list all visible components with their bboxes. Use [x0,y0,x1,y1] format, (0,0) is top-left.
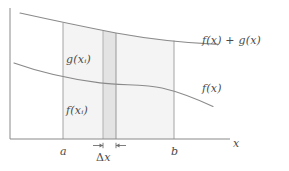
axis-label-x: x [233,138,239,149]
representative-strip-lower [103,83,116,139]
axis-tick-label-a: a [60,146,67,157]
delta-x-measure [93,143,126,148]
segment-label-g-xi: g(xᵢ) [66,54,91,65]
figure-canvas [0,0,289,171]
delta-symbol: Δ [96,151,104,164]
curve-label-f: f(x) [202,83,222,94]
segment-label-f-xi: f(xᵢ) [66,105,88,116]
strip-width-variable: x [104,151,110,164]
curve-label-f-plus-g: f(x) + g(x) [202,35,261,46]
representative-strip-upper [103,31,116,84]
area-between-curves-figure: f(x) + g(x) f(x) g(xᵢ) f(xᵢ) a b x Δx [0,0,289,171]
strip-width-label: Δx [96,152,111,163]
axis-tick-label-b: b [171,146,178,157]
